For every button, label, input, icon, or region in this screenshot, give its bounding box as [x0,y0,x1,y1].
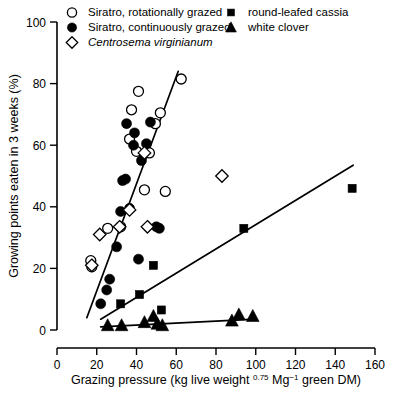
legend-label-2: Siratro, continuously grazed [88,21,231,33]
x-tick-label: 140 [325,358,345,372]
x-tick-label: 20 [90,358,104,372]
open-circle-point [133,86,143,96]
y-tick-label: 0 [39,324,46,338]
filled-circle-point [129,140,139,150]
filled-circle-point [122,119,132,129]
legend-label-1: Siratro, rotationally grazed [88,6,222,18]
legend-open-diamond [66,37,78,49]
filled-square-point [117,300,125,308]
x-tick-label: 80 [209,358,223,372]
filled-square-point [240,224,248,232]
y-tick-label: 40 [33,200,47,214]
open-circle-point [160,186,170,196]
filled-triangle-point [101,319,114,331]
x-tick-label: 0 [54,358,61,372]
legend-filled-square [228,9,235,16]
legend-marker-4 [228,9,235,16]
filled-square-point [348,184,356,192]
filled-circle-point [105,274,115,284]
y-tick-label: 60 [33,139,47,153]
filled-circle-point [112,242,122,252]
legend-open-circle [67,8,76,17]
filled-circle-point [96,299,106,309]
filled-circle-point [133,254,143,264]
filled-circle-point [141,139,151,149]
legend-label-5: white clover [247,21,309,33]
y-tick-label: 80 [33,77,47,91]
filled-square-point [149,261,157,269]
series-5 [101,308,259,331]
open-diamond-point [216,170,229,183]
legend-label-3: Centrosema virginianum [88,36,213,48]
legend-marker-1 [67,8,76,17]
open-circle-point [139,185,149,195]
x-tick-label: 40 [130,358,144,372]
legend-marker-2 [67,23,76,32]
filled-circle-point [130,128,140,138]
legend-filled-circle [67,23,76,32]
legend-label-4: round-leafed cassia [248,6,349,18]
legend-marker-3 [66,37,78,49]
series-4 [117,184,357,314]
scatter-plot: 020406080100020406080100120140160Growing… [0,0,414,395]
open-circle-point [176,74,186,84]
filled-circle-point [121,174,131,184]
series-1 [86,74,186,272]
open-circle-point [155,108,165,118]
y-axis-title: Growing points eaten in 3 weeks (%) [7,74,21,278]
y-tick-label: 20 [33,262,47,276]
open-circle-point [127,105,137,115]
filled-circle-point [102,285,112,295]
filled-square-point [157,306,165,314]
x-tick-label: 120 [285,358,305,372]
x-tick-label: 100 [246,358,266,372]
chart-figure: 020406080100020406080100120140160Growing… [0,0,414,395]
x-tick-label: 160 [365,358,385,372]
filled-circle-point [145,117,155,127]
filled-triangle-point [233,308,246,320]
filled-triangle-point [115,319,128,331]
filled-triangle-point [246,309,259,321]
filled-circle-point [154,223,164,233]
x-tick-label: 60 [170,358,184,372]
filled-square-point [135,291,143,299]
y-tick-label: 100 [26,16,46,30]
open-diamond-point [141,221,154,234]
series-3 [86,147,229,272]
x-axis-title: Grazing pressure (kg live weight 0.75 Mg… [71,373,361,387]
